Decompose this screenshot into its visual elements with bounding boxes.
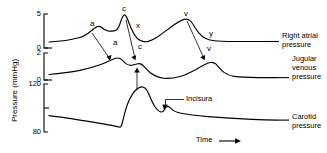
- x-axis-label: Time: [196, 136, 212, 145]
- connector-arrow-v: [187, 21, 205, 60]
- legend-right-atrial-line2: pressure: [282, 41, 311, 50]
- connector-arrow-a: [92, 33, 112, 61]
- wave-label-jugular-v: v: [207, 44, 211, 53]
- legend-jugular-line3: pressure: [292, 73, 321, 82]
- trace-carotid: [49, 87, 277, 127]
- wave-label-atrial-y: y: [209, 29, 213, 38]
- legend-carotid-line2: pressure: [292, 122, 321, 131]
- wave-label-jugular-a: a: [113, 38, 117, 47]
- figure-canvas: [0, 0, 327, 153]
- trace-right-atrial: [49, 15, 267, 42]
- wave-label-atrial-c: c: [122, 4, 126, 13]
- connector-arrow-c: [126, 20, 136, 60]
- connector-arrow-jugular-to-carotid: [134, 67, 140, 90]
- axis-bracket-right-atrial: [44, 14, 52, 48]
- axis-bracket-carotid: [44, 84, 49, 132]
- tick-right-atrial-5: 5: [18, 9, 41, 18]
- incisura-label: Incisura: [186, 95, 212, 104]
- tick-carotid-80: 80: [12, 127, 41, 136]
- tick-carotid-120: 120: [12, 79, 41, 88]
- wave-label-jugular-c: c: [138, 42, 142, 51]
- wave-label-atrial-a: a: [90, 19, 94, 28]
- trace-jugular-venous: [49, 58, 277, 79]
- pressure-waveform-figure: Pressure (mmHg) 5 0 2 0 120 80 a c x v y…: [0, 0, 327, 153]
- wave-label-atrial-x: x: [136, 21, 140, 30]
- wave-label-atrial-v: v: [184, 9, 188, 18]
- time-axis-arrow-icon: [219, 138, 241, 144]
- tick-jugular-2: 2: [18, 48, 41, 57]
- y-axis-label: Pressure (mmHg): [10, 59, 19, 122]
- axis-bracket-jugular: [44, 53, 52, 80]
